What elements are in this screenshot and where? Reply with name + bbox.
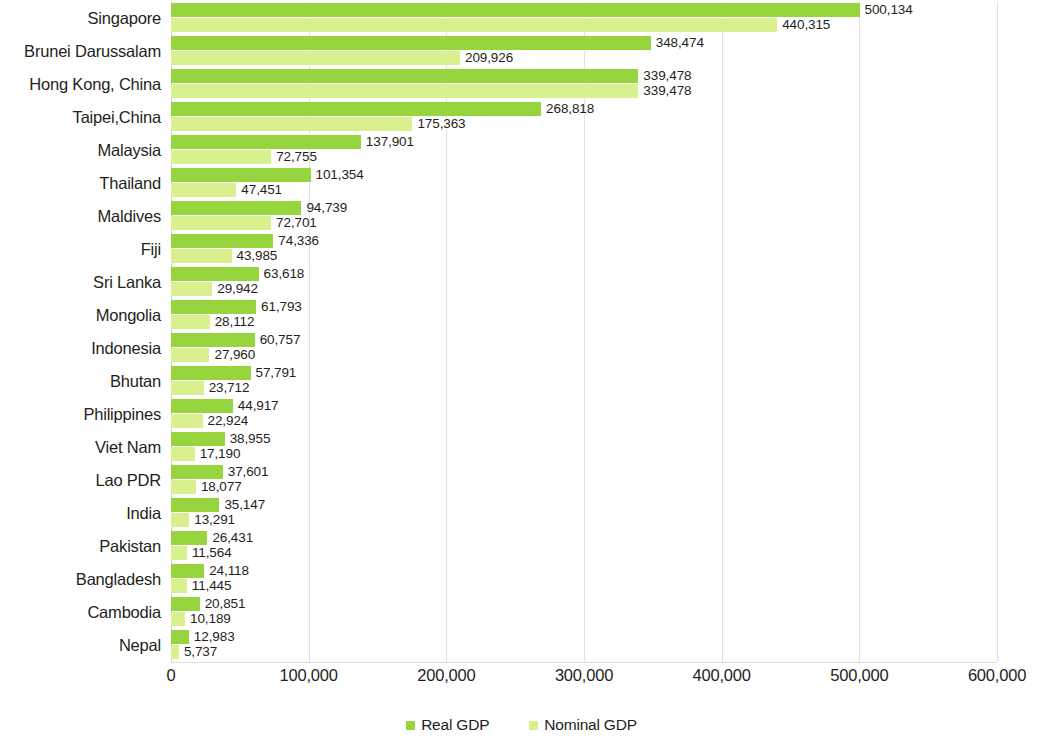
bar-row: 12,9835,737: [171, 629, 997, 662]
bar-value-label: 17,190: [195, 447, 241, 461]
bar-group-nominal: 18,077: [171, 480, 242, 494]
bar-row: 35,14713,291: [171, 497, 997, 530]
bar-value-label: 101,354: [311, 168, 364, 182]
category-label: Bhutan: [0, 365, 161, 398]
bar-nominal: [171, 117, 412, 131]
bar-value-label: 348,474: [651, 36, 704, 50]
bar-nominal: [171, 282, 212, 296]
bar-group-real: 268,818: [171, 102, 594, 116]
bar-group-real: 500,134: [171, 3, 913, 17]
bar-group-real: 24,118: [171, 564, 249, 578]
bar-real: [171, 399, 233, 413]
category-label: Singapore: [0, 2, 161, 35]
bar-real: [171, 564, 204, 578]
x-tick-label: 0: [167, 666, 176, 685]
bar-group-nominal: 175,363: [171, 117, 466, 131]
bar-row: 500,134440,315: [171, 2, 997, 35]
bar-value-label: 268,818: [541, 102, 594, 116]
bar-value-label: 27,960: [209, 348, 255, 362]
bar-row: 44,91722,924: [171, 398, 997, 431]
bar-value-label: 28,112: [210, 315, 255, 329]
bar-group-nominal: 13,291: [171, 513, 235, 527]
bar-row: 26,43111,564: [171, 530, 997, 563]
bar-value-label: 11,564: [187, 546, 232, 560]
bar-value-label: 137,901: [361, 135, 414, 149]
category-label: Bangladesh: [0, 563, 161, 596]
bar-value-label: 29,942: [212, 282, 258, 296]
bar-nominal: [171, 612, 185, 626]
bar-group-nominal: 5,737: [171, 645, 217, 659]
category-label: Maldives: [0, 200, 161, 233]
bar-real: [171, 300, 256, 314]
x-tick-label: 200,000: [417, 666, 475, 685]
bar-value-label: 47,451: [236, 183, 282, 197]
bar-real: [171, 498, 219, 512]
bar-group-nominal: 47,451: [171, 183, 282, 197]
bar-value-label: 43,985: [232, 249, 278, 263]
bar-nominal: [171, 84, 638, 98]
legend-item[interactable]: Nominal GDP: [529, 716, 637, 734]
bar-group-nominal: 10,189: [171, 612, 231, 626]
bar-group-nominal: 11,564: [171, 546, 232, 560]
category-label: Hong Kong, China: [0, 68, 161, 101]
x-tick-label: 300,000: [555, 666, 613, 685]
legend-label: Nominal GDP: [544, 716, 637, 734]
bar-row: 74,33643,985: [171, 233, 997, 266]
category-label: Lao PDR: [0, 464, 161, 497]
category-label: Sri Lanka: [0, 266, 161, 299]
bar-value-label: 339,478: [638, 84, 691, 98]
category-label: Thailand: [0, 167, 161, 200]
bar-value-label: 63,618: [259, 267, 305, 281]
bar-value-label: 500,134: [860, 3, 913, 17]
legend-swatch-icon: [406, 721, 415, 730]
bar-real: [171, 366, 251, 380]
bar-real: [171, 432, 225, 446]
bar-real: [171, 333, 255, 347]
x-axis-tick-labels: 0100,000200,000300,000400,000500,000600,…: [0, 666, 1043, 692]
bar-value-label: 18,077: [196, 480, 242, 494]
x-tick-label: 500,000: [830, 666, 888, 685]
bar-value-label: 37,601: [223, 465, 269, 479]
bar-real: [171, 267, 259, 281]
bar-value-label: 35,147: [219, 498, 265, 512]
category-label: Viet Nam: [0, 431, 161, 464]
category-label: Mongolia: [0, 299, 161, 332]
bar-rows: 500,134440,315348,474209,926339,478339,4…: [171, 2, 997, 662]
x-tick-label: 400,000: [693, 666, 751, 685]
bar-group-real: 35,147: [171, 498, 265, 512]
bar-row: 37,60118,077: [171, 464, 997, 497]
x-axis-line: [171, 662, 997, 663]
bar-value-label: 339,478: [638, 69, 691, 83]
legend-swatch-icon: [529, 721, 538, 730]
bar-group-nominal: 28,112: [171, 315, 254, 329]
bar-value-label: 12,983: [189, 630, 235, 644]
legend-item[interactable]: Real GDP: [406, 716, 489, 734]
bar-row: 57,79123,712: [171, 365, 997, 398]
bar-value-label: 440,315: [777, 18, 830, 32]
bar-group-real: 94,739: [171, 201, 347, 215]
bar-value-label: 10,189: [185, 612, 231, 626]
bar-group-real: 20,851: [171, 597, 245, 611]
bar-value-label: 24,118: [204, 564, 249, 578]
bar-nominal: [171, 579, 187, 593]
bar-nominal: [171, 315, 210, 329]
category-label: Brunei Darussalam: [0, 35, 161, 68]
bar-group-nominal: 72,701: [171, 216, 317, 230]
x-tick-label: 100,000: [280, 666, 338, 685]
bar-row: 63,61829,942: [171, 266, 997, 299]
bar-group-nominal: 209,926: [171, 51, 513, 65]
bar-group-nominal: 17,190: [171, 447, 240, 461]
bar-value-label: 94,739: [301, 201, 347, 215]
bar-nominal: [171, 645, 179, 659]
bar-real: [171, 36, 651, 50]
bar-group-real: 38,955: [171, 432, 270, 446]
bar-group-real: 44,917: [171, 399, 279, 413]
bar-nominal: [171, 249, 232, 263]
bar-real: [171, 135, 361, 149]
bar-row: 137,90172,755: [171, 134, 997, 167]
category-label: Pakistan: [0, 530, 161, 563]
bar-value-label: 5,737: [179, 645, 217, 659]
bar-group-real: 101,354: [171, 168, 364, 182]
legend-label: Real GDP: [421, 716, 489, 734]
bar-real: [171, 531, 207, 545]
